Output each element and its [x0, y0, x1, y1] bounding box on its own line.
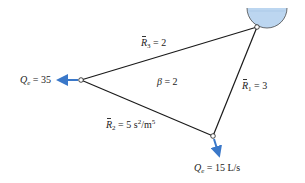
resistance-symbol: R — [141, 38, 147, 48]
demand-bottom-label: Qe = 15 L/s — [194, 163, 240, 173]
resistance-subscript: 2 — [112, 124, 116, 132]
node-bottom — [211, 134, 216, 139]
demand-arrow-bottom — [214, 139, 218, 152]
resistance-value: = 2 — [153, 37, 166, 48]
pipe-3 — [81, 27, 257, 80]
beta-symbol: β — [157, 76, 162, 87]
beta-value: = 2 — [164, 76, 177, 87]
demand-subscript: e — [201, 167, 204, 175]
node-left — [79, 78, 84, 83]
demand-value: = 35 — [33, 74, 51, 85]
pipe-network-diagram — [0, 0, 305, 183]
resistance-symbol: R — [242, 81, 248, 91]
loop-beta-label: β = 2 — [157, 77, 178, 87]
demand-left-label: Qe = 35 — [20, 75, 51, 85]
unit-text: /m — [141, 119, 152, 130]
resistance-subscript: 1 — [248, 85, 252, 93]
demand-subscript: e — [27, 79, 30, 87]
pipe-1-label: R1 = 3 — [242, 81, 267, 91]
unit-exponent: 5 — [152, 118, 156, 126]
resistance-value: = 3 — [254, 80, 267, 91]
pipe-2-label: R2 = 5 s2/m5 — [106, 120, 155, 130]
reservoir-icon — [247, 8, 287, 28]
demand-value: = 15 L/s — [207, 162, 240, 173]
resistance-symbol: R — [106, 120, 112, 130]
resistance-value: = 5 s — [118, 119, 138, 130]
node-reservoir — [255, 25, 260, 30]
resistance-subscript: 3 — [147, 42, 151, 50]
pipe-3-label: R3 = 2 — [141, 38, 166, 48]
